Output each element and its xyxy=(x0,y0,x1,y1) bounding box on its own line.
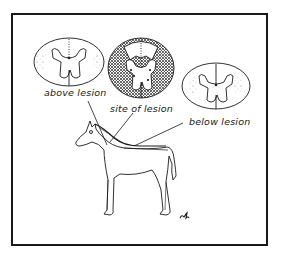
horse-outline xyxy=(76,121,176,215)
artist-signature xyxy=(180,213,189,218)
label-site-of-lesion: site of lesion xyxy=(110,103,173,114)
diagram-canvas xyxy=(0,0,282,254)
cord-section-site xyxy=(108,38,174,98)
label-above-lesion: above lesion xyxy=(44,87,106,98)
label-below-lesion: below lesion xyxy=(189,116,250,127)
cord-section-above xyxy=(34,38,104,86)
cord-section-below xyxy=(182,63,250,109)
